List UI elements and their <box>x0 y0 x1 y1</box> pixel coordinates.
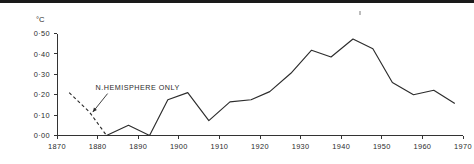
x-tick-label: 1960 <box>413 142 431 151</box>
x-tick-label: 1930 <box>292 142 310 151</box>
x-tick-label: 1880 <box>89 142 107 151</box>
annotation-label-text: N.HEMISPHERE ONLY <box>96 83 180 92</box>
y-axis-ticks <box>54 34 58 136</box>
y-tick-label: 0·00 <box>34 131 50 140</box>
temperature-line-chart: 0·000·100·200·300·400·50 187018801890190… <box>0 0 474 164</box>
annotation-nhemisphere-only: N.HEMISPHERE ONLY <box>93 83 180 112</box>
y-tick-label: 0·30 <box>34 70 50 79</box>
x-tick-label: 1890 <box>129 142 147 151</box>
y-tick-label: 0·20 <box>34 90 50 99</box>
chart-page: 0·000·100·200·300·400·50 187018801890190… <box>0 0 474 164</box>
x-tick-label: 1970 <box>454 142 472 151</box>
x-tick-label: 1950 <box>373 142 391 151</box>
y-tick-label: 0·40 <box>34 50 50 59</box>
data-series-nhemisphere-dashed <box>69 93 106 136</box>
x-axis-tick-labels: 1870188018901900191019201930194019501960… <box>48 142 472 151</box>
x-tick-label: 1910 <box>210 142 228 151</box>
y-tick-label: 0·10 <box>34 111 50 120</box>
x-tick-label: 1940 <box>332 142 350 151</box>
x-tick-label: 1920 <box>251 142 269 151</box>
degrees-celsius-unit-label: °C <box>36 15 45 24</box>
y-axis-tick-labels: 0·000·100·200·300·400·50 <box>34 29 50 140</box>
x-tick-label: 1870 <box>48 142 66 151</box>
y-tick-label: 0·50 <box>34 29 50 38</box>
x-tick-label: 1900 <box>170 142 188 151</box>
x-axis-ticks <box>57 136 463 140</box>
